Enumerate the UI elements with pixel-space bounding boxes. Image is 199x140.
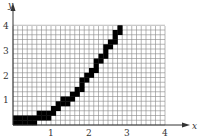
y-axis-label: y: [7, 0, 14, 10]
y-tick-label: 4: [3, 21, 9, 31]
pixelated-curve-chart: y x 12341234: [0, 0, 199, 140]
x-tick-label: 3: [124, 128, 130, 138]
curve-pixels: [13, 25, 123, 125]
y-tick-label: 3: [3, 46, 9, 56]
x-axis-arrow-icon: [182, 123, 190, 128]
x-tick-label: 2: [86, 128, 92, 138]
x-tick-label: 4: [162, 128, 168, 138]
y-tick-label: 1: [3, 95, 9, 105]
x-axis-label: x: [192, 121, 197, 131]
x-tick-label: 1: [48, 128, 54, 138]
y-tick-label: 2: [3, 71, 9, 81]
